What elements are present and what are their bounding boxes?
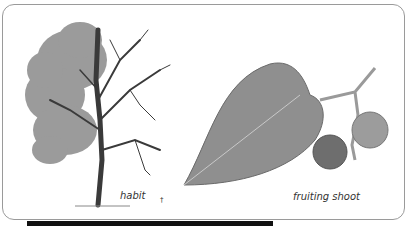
tree-habit-illustration — [10, 10, 180, 210]
fruit-large — [352, 112, 388, 148]
bottom-bar — [27, 221, 273, 226]
habit-label: habit — [120, 190, 146, 201]
footnote-mark: † — [160, 196, 164, 204]
fruiting-shoot-label: fruiting shoot — [293, 191, 360, 202]
foliage — [25, 22, 107, 164]
fruiting-shoot-illustration — [180, 60, 390, 190]
fruit-small — [313, 135, 347, 169]
leaf — [184, 63, 323, 185]
